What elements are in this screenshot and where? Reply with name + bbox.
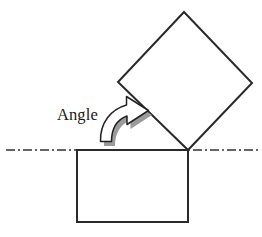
- rotated-square: [118, 12, 252, 150]
- figure-container: Angle: [0, 0, 262, 237]
- angle-text-label: Angle: [57, 105, 98, 124]
- angle-diagram-svg: Angle: [0, 0, 262, 237]
- base-rectangle: [77, 150, 188, 222]
